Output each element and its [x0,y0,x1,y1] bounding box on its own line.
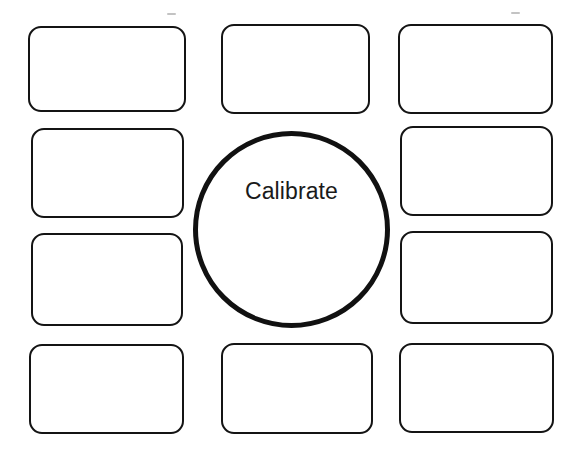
center-hub-label: Calibrate [245,180,338,203]
scan-artifact-mark [511,12,520,14]
diagram-canvas: Calibrate [0,0,579,459]
scan-artifact-mark [167,13,176,15]
node-box-bottom-left[interactable] [29,344,184,434]
node-box-top-center[interactable] [221,24,370,114]
node-box-middle-lower-right[interactable] [400,231,553,324]
node-box-middle-upper-left[interactable] [31,128,184,218]
node-box-bottom-right[interactable] [399,343,554,433]
center-hub-circle[interactable]: Calibrate [193,131,390,328]
node-box-bottom-center[interactable] [221,343,373,434]
node-box-middle-upper-right[interactable] [400,126,553,216]
node-box-top-right[interactable] [398,24,553,114]
node-box-middle-lower-left[interactable] [31,233,183,326]
node-box-top-left[interactable] [28,26,186,112]
